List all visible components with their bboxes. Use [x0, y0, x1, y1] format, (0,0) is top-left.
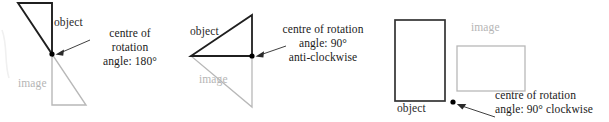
- leader-arrow-90-cw: [457, 104, 495, 117]
- object-rectangle: [395, 20, 445, 101]
- object-label: object: [54, 15, 83, 29]
- centre-of-rotation-dot: [249, 53, 254, 58]
- diagram-canvas: object image centre of rotation angle: 1…: [0, 0, 609, 122]
- figure-rotation-90-anticlockwise: object image centre of rotation angle: 9…: [185, 0, 385, 122]
- image-label: image: [199, 72, 228, 86]
- figure-rotation-90-clockwise: object image centre of rotation angle: 9…: [385, 0, 609, 122]
- annotation-line-1: centre of rotation: [267, 22, 379, 36]
- object-label: object: [190, 24, 219, 38]
- centre-of-rotation-annotation: centre of rotation angle: 90° clockwise: [495, 88, 609, 116]
- scan-artifact: [2, 30, 9, 78]
- annotation-line-2: rotation: [92, 40, 168, 54]
- figure-rotation-180: object image centre of rotation angle: 1…: [0, 0, 185, 122]
- annotation-line-2: angle: 90° clockwise: [495, 102, 609, 116]
- annotation-line-2: angle: 90°: [267, 36, 379, 50]
- centre-of-rotation-dot: [49, 51, 54, 56]
- image-rectangle: [457, 46, 525, 91]
- object-label: object: [397, 101, 426, 115]
- centre-of-rotation-annotation: centre of rotation angle: 90° anti-clock…: [267, 22, 379, 64]
- image-label: image: [471, 20, 500, 34]
- object-triangle-180: [18, 3, 52, 54]
- image-label: image: [18, 76, 47, 90]
- annotation-line-3: angle: 180°: [92, 54, 168, 68]
- annotation-line-1: centre of: [92, 26, 168, 40]
- centre-of-rotation-dot: [450, 99, 455, 104]
- annotation-line-3: anti-clockwise: [267, 50, 379, 64]
- leader-arrow-180: [56, 40, 91, 56]
- image-triangle-180: [52, 54, 86, 105]
- annotation-line-1: centre of rotation: [495, 88, 609, 102]
- centre-of-rotation-annotation: centre of rotation angle: 180°: [92, 26, 168, 68]
